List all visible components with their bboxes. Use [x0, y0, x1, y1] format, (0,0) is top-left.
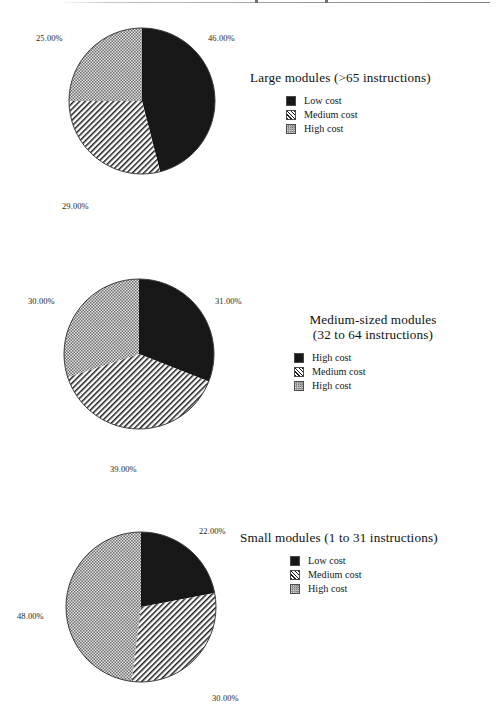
legend-label: High cost: [312, 352, 351, 363]
legend-label: High cost: [312, 380, 351, 391]
legend-swatch-medium-cost: [294, 367, 304, 377]
chart-panel-large-modules: 25.00% 46.00% 29.00% Large modules (>65 …: [0, 0, 499, 250]
legend-item-medium-cost: Medium cost: [294, 365, 488, 378]
legend: Low cost Medium cost High cost: [290, 554, 490, 595]
pie-label-medium-cost: 29.00%: [62, 202, 89, 211]
legend-item-high-cost: High cost: [294, 379, 488, 392]
legend-label: High cost: [304, 123, 343, 134]
legend-label: Low cost: [304, 95, 342, 106]
chart-panel-medium-modules: 30.00% 31.00% 39.00% Medium-sized module…: [0, 250, 499, 500]
pie-svg: [65, 531, 217, 683]
legend-swatch-low-cost: [286, 96, 296, 106]
chart-title: Large modules (>65 instructions): [250, 70, 490, 85]
legend-item-high-cost: High cost: [290, 582, 490, 595]
legend-swatch-high-cost: [294, 381, 304, 391]
pie-slice-3: [69, 28, 142, 101]
chart-title: Small modules (1 to 31 instructions): [240, 530, 490, 545]
legend-label: Low cost: [308, 555, 346, 566]
pie-label-medium-cost: 39.00%: [110, 465, 137, 474]
legend-swatch-low-cost: [290, 556, 300, 566]
pie-slice-3: [66, 532, 141, 681]
pie-chart-small-modules: [65, 531, 217, 683]
caption-large-modules: Large modules (>65 instructions) Low cos…: [250, 70, 490, 136]
legend-swatch-medium-cost: [286, 110, 296, 120]
pie-svg: [63, 278, 215, 430]
caption-medium-modules: Medium-sized modules (32 to 64 instructi…: [258, 312, 488, 393]
legend-label: Medium cost: [312, 366, 365, 377]
pie-chart-medium-modules: [63, 278, 215, 430]
pie-svg: [68, 27, 216, 175]
legend-swatch-high-cost-dark: [294, 353, 304, 363]
pie-chart-figure: 25.00% 46.00% 29.00% Large modules (>65 …: [0, 0, 499, 723]
legend-item-low-cost: Low cost: [286, 94, 490, 107]
legend-label: Medium cost: [304, 109, 357, 120]
legend-item-medium-cost: Medium cost: [286, 108, 490, 121]
chart-title-line-1: Medium-sized modules: [309, 312, 436, 327]
legend-swatch-medium-cost: [290, 570, 300, 580]
pie-label-high-cost: 25.00%: [36, 34, 63, 43]
legend-item-high-cost-dark: High cost: [294, 351, 488, 364]
chart-title: Medium-sized modules (32 to 64 instructi…: [258, 312, 488, 342]
pie-label-high-cost: 30.00%: [28, 297, 55, 306]
legend-swatch-high-cost: [290, 584, 300, 594]
legend-label: High cost: [308, 583, 347, 594]
caption-small-modules: Small modules (1 to 31 instructions) Low…: [240, 530, 490, 596]
pie-label-high-cost: 48.00%: [17, 612, 44, 621]
legend-item-medium-cost: Medium cost: [290, 568, 490, 581]
legend-item-high-cost: High cost: [286, 122, 490, 135]
legend-label: Medium cost: [308, 569, 361, 580]
pie-label-high-cost-dark: 31.00%: [215, 297, 242, 306]
legend-swatch-high-cost: [286, 124, 296, 134]
pie-chart-large-modules: [68, 27, 216, 175]
legend: High cost Medium cost High cost: [294, 351, 488, 392]
pie-label-low-cost: 46.00%: [208, 34, 235, 43]
pie-label-low-cost: 22.00%: [199, 527, 226, 536]
chart-panel-small-modules: 22.00% 30.00% 48.00% Small modules (1 to…: [0, 500, 499, 723]
legend-item-low-cost: Low cost: [290, 554, 490, 567]
legend: Low cost Medium cost High cost: [286, 94, 490, 135]
chart-title-line-2: (32 to 64 instructions): [258, 327, 488, 342]
pie-label-medium-cost: 30.00%: [212, 694, 239, 703]
